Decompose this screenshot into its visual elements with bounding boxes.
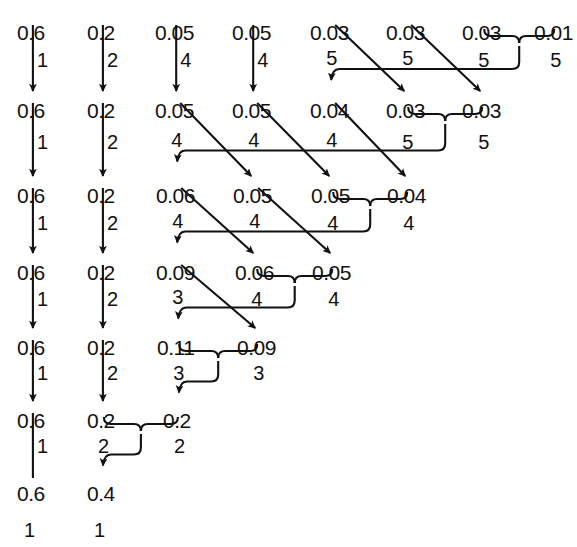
probability-value: 0.03	[386, 22, 425, 43]
flow-arrow	[178, 286, 295, 319]
branch-digit: 2	[107, 289, 118, 309]
merge-digit: 2	[174, 436, 185, 456]
bottom-code-digit: 1	[94, 520, 105, 540]
branch-digit: 1	[37, 289, 48, 309]
probability-value: 0.05	[233, 185, 272, 206]
branch-digit: 2	[107, 132, 118, 152]
branch-digit: 2	[107, 50, 118, 70]
flow-arrow	[331, 46, 519, 80]
probability-value: 0.2	[87, 185, 115, 206]
merge-digit: 2	[98, 436, 109, 456]
merge-digit: 3	[173, 363, 184, 383]
probability-value: 0.2	[87, 100, 115, 121]
bottom-code-digit: 1	[24, 520, 35, 540]
probability-value: 0.2	[87, 337, 115, 358]
branch-digit: 4	[249, 211, 260, 231]
probability-value: 0.6	[17, 262, 45, 283]
merge-digit: 4	[251, 289, 262, 309]
probability-value: 0.03	[310, 22, 349, 43]
probability-value: 0.6	[17, 337, 45, 358]
branch-digit: 4	[257, 50, 268, 70]
branch-digit: 2	[107, 213, 118, 233]
probability-value: 0.4	[87, 483, 115, 504]
branch-digit: 5	[326, 48, 337, 68]
probability-value: 0.2	[87, 22, 115, 43]
probability-value: 0.2	[163, 410, 191, 431]
probability-value: 0.03	[386, 100, 425, 121]
probability-value: 0.6	[17, 22, 45, 43]
branch-digit: 5	[402, 48, 413, 68]
merge-digit: 4	[328, 289, 339, 309]
branch-digit: 2	[107, 363, 118, 383]
probability-value: 0.05	[232, 100, 271, 121]
merge-digit: 5	[478, 132, 489, 152]
branch-digit: 4	[180, 50, 191, 70]
probability-value: 0.04	[310, 100, 349, 121]
branch-digit: 1	[37, 213, 48, 233]
branch-digit: 1	[37, 50, 48, 70]
merge-digit: 5	[402, 132, 413, 152]
branch-digit: 4	[172, 211, 183, 231]
probability-value: 0.09	[156, 262, 195, 283]
merge-digit: 3	[253, 363, 264, 383]
probability-value: 0.05	[311, 185, 350, 206]
merge-digit: 4	[327, 213, 338, 233]
merge-digit: 5	[478, 50, 489, 70]
probability-value: 0.06	[156, 185, 195, 206]
branch-digit: 1	[37, 436, 48, 456]
probability-value: 0.05	[155, 22, 194, 43]
probability-value: 0.05	[155, 100, 194, 121]
probability-value: 0.09	[237, 337, 276, 358]
probability-value: 0.6	[17, 410, 45, 431]
probability-value: 0.11	[157, 337, 194, 358]
merge-digit: 5	[550, 50, 561, 70]
probability-value: 0.05	[232, 22, 271, 43]
probability-value: 0.05	[312, 262, 351, 283]
probability-value: 0.06	[235, 262, 274, 283]
probability-value: 0.03	[462, 100, 501, 121]
branch-digit: 4	[326, 130, 337, 150]
probability-value: 0.6	[17, 185, 45, 206]
branch-digit: 4	[248, 130, 259, 150]
branch-digit: 3	[172, 287, 183, 307]
probability-value: 0.04	[387, 185, 426, 206]
probability-value: 0.2	[87, 410, 115, 431]
probability-value: 0.01	[534, 22, 573, 43]
huffman-reduction-diagram: 0.60.20.050.050.030.030.030.010.60.20.05…	[0, 0, 577, 547]
branch-digit: 1	[37, 363, 48, 383]
probability-value: 0.6	[17, 483, 45, 504]
merge-digit: 4	[403, 213, 414, 233]
probability-value: 0.6	[17, 100, 45, 121]
branch-digit: 1	[37, 132, 48, 152]
flow-arrow	[179, 361, 218, 393]
probability-value: 0.2	[87, 262, 115, 283]
probability-value: 0.03	[462, 22, 501, 43]
branch-digit: 4	[171, 130, 182, 150]
flow-arrow	[177, 209, 370, 243]
